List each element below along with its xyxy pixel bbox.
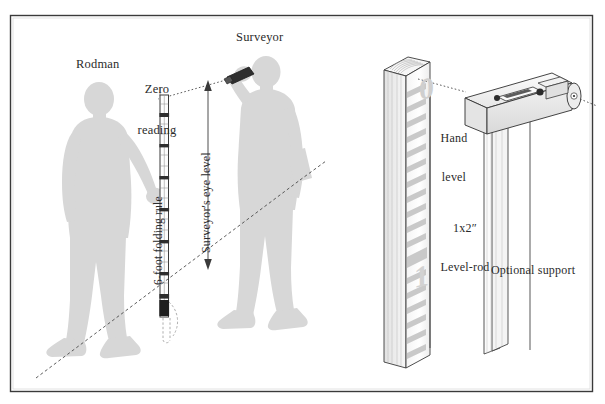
label-hand-level: Hand level [432, 106, 476, 210]
label-hand-level-line1: Hand [432, 132, 476, 145]
surveyor-figure [217, 56, 312, 330]
hand-level-instrument [465, 73, 581, 134]
label-hand-level-line2: level [432, 171, 476, 184]
label-level-rod-line1: 1x2″ [434, 222, 496, 235]
surveying-diagram-figure: Rodman Zero reading Surveyor 6-foot fold… [0, 0, 605, 404]
rod-number-one: 1 [414, 259, 429, 295]
label-folding-rule: 6-foot folding rule [152, 196, 164, 285]
label-zero-reading-line2: reading [129, 124, 185, 138]
label-zero-reading-line1: Zero [129, 83, 185, 97]
label-surveyor: Surveyor [236, 31, 283, 45]
label-zero-reading: Zero reading [129, 56, 185, 164]
label-level-rod-line2: Level-rod [434, 261, 496, 274]
label-rodman: Rodman [76, 58, 120, 72]
label-level-rod: 1x2″ Level-rod [434, 196, 496, 300]
rod-number-zero: 0 [419, 71, 434, 107]
label-eye-level: Surveyor's eye level [200, 152, 213, 253]
label-optional-support: Optional support [491, 264, 575, 277]
